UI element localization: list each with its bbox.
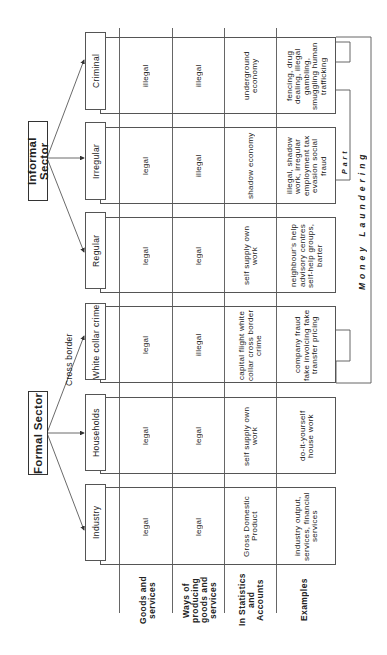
cell-regular-ways: legal	[175, 220, 223, 291]
cell-white-collar-goods: legal	[122, 309, 170, 381]
column-header-households: Households	[85, 394, 106, 471]
cell-industry-ways: legal	[175, 490, 223, 563]
money-laundering-label: Money Laundering	[354, 120, 370, 320]
cell-regular-goods: legal	[122, 220, 170, 291]
cell-households-statistics: self supply own work	[227, 400, 275, 472]
row-label-examples: Examples	[282, 570, 326, 630]
cell-irregular-ways: illegal	[175, 130, 223, 202]
cell-regular-statistics: self supply own work	[227, 220, 275, 291]
row-label-goods: Goods and services	[128, 570, 168, 630]
cell-criminal-ways: illegal	[175, 40, 223, 112]
cell-irregular-goods: legal	[122, 130, 170, 202]
cell-households-goods: legal	[122, 400, 170, 472]
cell-irregular-examples: illegal, shadow work, irregular employme…	[279, 130, 335, 202]
cell-criminal-goods: illegal	[122, 40, 170, 112]
cell-households-examples: do-it-yourself house work	[279, 400, 335, 472]
formal-sector-label: Formal Sector	[32, 392, 44, 473]
column-header-criminal: Criminal	[85, 32, 106, 110]
cross-border-label: Cross border	[62, 330, 76, 390]
cell-regular-examples: neighbour's help advisory centres self-h…	[279, 220, 335, 291]
cell-industry-goods: legal	[122, 490, 170, 563]
cell-white-collar-examples: company fraud fake invoicing fake transf…	[279, 309, 335, 381]
column-header-white-collar: White collar crime	[85, 303, 106, 380]
cell-industry-statistics: Gross Domestic Product	[227, 490, 275, 563]
informal-sector-label: Informal Sector	[26, 122, 50, 200]
formal-sector-box: Formal Sector	[28, 391, 48, 475]
row-label-statistics: In Statistics and Accounts	[230, 570, 272, 630]
cell-criminal-statistics: underground economy	[227, 40, 275, 112]
cell-industry-examples: industry output, services, financial ser…	[279, 490, 335, 563]
cell-white-collar-statistics: capital flight white collar cross border…	[227, 309, 275, 381]
column-header-irregular: Irregular	[85, 122, 106, 200]
row-label-ways: Ways of producing goods and services	[178, 570, 222, 630]
cell-white-collar-ways: illegal	[175, 309, 223, 381]
cell-households-ways: legal	[175, 400, 223, 472]
column-header-regular: Regular	[85, 212, 106, 289]
column-header-industry: Industry	[85, 484, 106, 561]
cell-irregular-statistics: shadow economy	[227, 130, 275, 202]
part-label: Part	[338, 148, 350, 174]
cell-criminal-examples: fencing, drug dealing, illegal gambling,…	[279, 40, 335, 112]
informal-sector-box: Informal Sector	[28, 121, 48, 201]
